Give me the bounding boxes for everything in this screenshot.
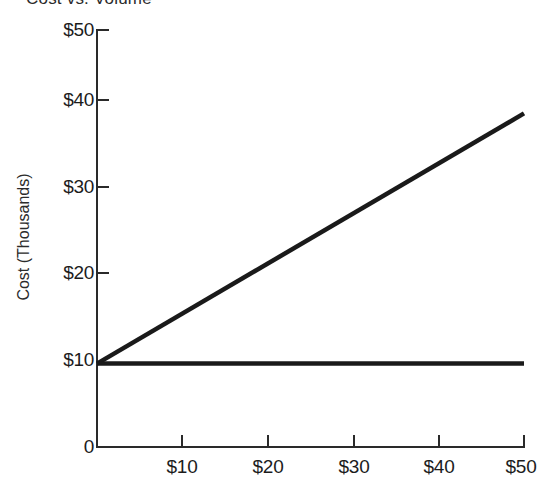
chart-figure: Cost vs. Volume Cost (Thousands) $50 $40… (0, 0, 543, 489)
y-axis-ticks (97, 30, 109, 273)
data-series-group (97, 113, 524, 363)
plot-area (0, 0, 543, 489)
x-axis-ticks (182, 435, 524, 447)
series-line-total-cost (97, 113, 524, 363)
